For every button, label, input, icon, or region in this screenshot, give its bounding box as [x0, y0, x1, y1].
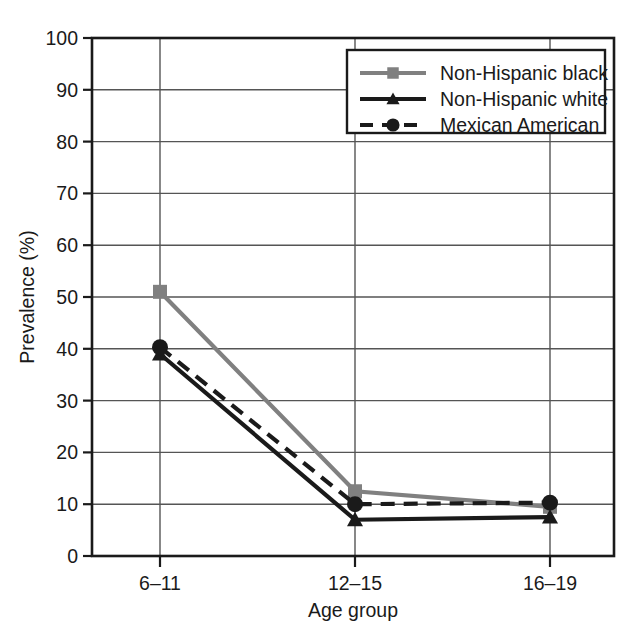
y-tick-label: 100 [45, 27, 78, 49]
y-tick-label: 80 [56, 131, 78, 153]
legend-label: Mexican American [440, 114, 599, 136]
y-tick-label: 60 [56, 234, 78, 256]
x-tick-label: 6–11 [139, 572, 181, 594]
chart-container: 0102030405060708090100 6–1112–1516–19 Pr… [0, 0, 633, 636]
marker-circle [386, 118, 399, 131]
marker-square [348, 484, 362, 498]
y-axis-title: Prevalence (%) [16, 230, 38, 363]
prevalence-by-age-group-line-chart: 0102030405060708090100 6–1112–1516–19 Pr… [0, 0, 633, 636]
y-tick-label: 90 [56, 79, 78, 101]
y-tick-label: 10 [56, 493, 78, 515]
marker-square [153, 285, 167, 299]
x-tick-label: 16–19 [523, 572, 577, 594]
y-tick-label: 50 [56, 286, 78, 308]
y-tick-label: 40 [56, 338, 78, 360]
chart-legend: Non-Hispanic blackNon-Hispanic whiteMexi… [347, 50, 608, 136]
marker-circle [542, 495, 558, 511]
marker-circle [152, 339, 168, 355]
y-tick-label: 30 [56, 390, 78, 412]
marker-square [387, 67, 398, 78]
x-axis-title: Age group [308, 599, 398, 621]
marker-circle [347, 496, 363, 512]
y-tick-label: 20 [56, 441, 78, 463]
legend-label: Non-Hispanic black [440, 62, 608, 84]
y-tick-label: 0 [67, 545, 78, 567]
y-tick-label: 70 [56, 182, 78, 204]
x-tick-label: 12–15 [328, 572, 382, 594]
legend-label: Non-Hispanic white [440, 88, 608, 110]
legend-entries: Non-Hispanic blackNon-Hispanic whiteMexi… [360, 62, 608, 136]
